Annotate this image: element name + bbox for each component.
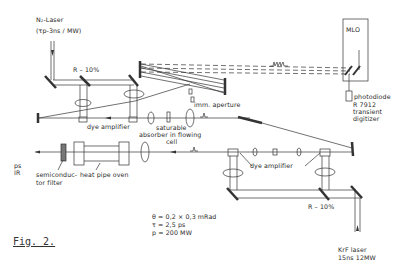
mlo-label: MLO: [346, 26, 360, 33]
mirror-r10-top: [80, 76, 90, 86]
saturable-absorber-cell: [167, 112, 170, 122]
lens-bottom-1: [223, 169, 243, 177]
dye-amplifier-top-label: dye amplifier: [87, 123, 130, 130]
semiconductor-filter-label-2: tor filter: [36, 179, 63, 186]
n2-laser-params-label: (τp-3ns / MW): [36, 27, 81, 34]
figure-caption: Fig. 2.: [13, 236, 55, 247]
krf-laser-label-2: 15ns 12MW: [338, 254, 376, 261]
lens-top-2: [124, 90, 144, 98]
heat-pipe-end-right: [119, 142, 129, 165]
digitizer-label-1: R 7912: [353, 101, 376, 108]
heat-pipe-oven-label: heat pipe oven: [80, 171, 129, 178]
mirror-top-right: [129, 75, 138, 86]
saturable-absorber-label-2: absorber in flowing: [139, 131, 201, 138]
semiconductor-filter: [61, 144, 66, 161]
n2-laser-label: N₂-Laser: [36, 16, 63, 23]
mirror-krf: [351, 186, 362, 198]
saturable-absorber-label-3: cell: [166, 138, 177, 145]
ps-ir-label-2: IR: [14, 169, 20, 176]
ps-ir-label-1: ps: [14, 162, 21, 169]
digitizer-label-2: transient: [353, 108, 382, 115]
r10-bottom-label: R – 10%: [308, 203, 334, 210]
photodiode-label: photodiode: [354, 93, 391, 100]
dye-cell-3: [228, 149, 238, 156]
krf-laser-label-1: KrF laser: [338, 246, 367, 253]
dye-amplifier-bottom-label: dye amplifier: [250, 162, 293, 169]
end-mirror-right: [352, 142, 353, 156]
dye-cell-4: [320, 149, 330, 156]
heat-pipe-end-left: [74, 142, 84, 165]
r10-top-label: R – 10%: [73, 66, 99, 73]
aperture-1: [189, 89, 192, 94]
photodiode-box: [346, 91, 352, 101]
digitizer-label-3: digitizer: [353, 115, 379, 122]
param-theta-label: θ = 0,2 × 0,3 mRad: [152, 213, 216, 220]
param-tau-label: τ = 2,5 ps: [152, 221, 185, 228]
param-p-label: p = 200 MW: [152, 229, 192, 236]
lens-top-1: [75, 100, 91, 107]
saturable-absorber-label-1: saturable: [156, 124, 187, 131]
lens-bottom-2: [315, 168, 335, 176]
semiconductor-filter-label-1: semiconduc-: [36, 171, 77, 178]
imm-aperture-label: imm. aperture: [194, 101, 240, 108]
